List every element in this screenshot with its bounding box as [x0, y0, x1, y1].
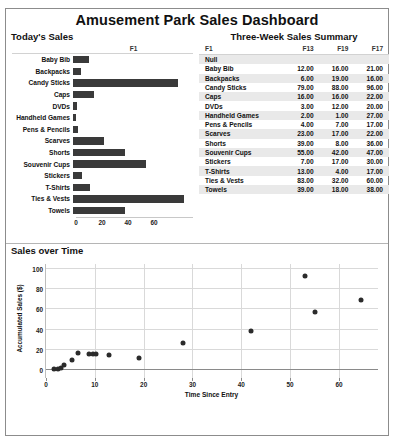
- scatter-grid-line-vertical: [144, 264, 145, 378]
- table-cell-name: Backpacks: [199, 74, 285, 83]
- table-cell-value: 7.00: [320, 120, 355, 129]
- scatter-point: [180, 340, 185, 345]
- bar-track: [73, 100, 193, 112]
- scatter-x-tick-label: 60: [335, 381, 342, 388]
- scatter-grid-line-vertical: [241, 264, 242, 378]
- sales-over-time-panel: Sales over Time Accumulated Sales ($) 01…: [6, 244, 388, 408]
- table-row: Scarves23.0017.0022.00: [199, 129, 389, 138]
- table-row: Handheld Games2.001.0027.00: [199, 111, 389, 120]
- bar-track: [73, 135, 193, 147]
- three-week-summary-panel: Three-Week Sales Summary F1F13F19F17 Nul…: [199, 30, 389, 243]
- summary-table: F1F13F19F17 NullBaby Bib12.0016.0021.00B…: [199, 44, 389, 194]
- bar-chart-rows: Baby BibBackpacksCandy SticksCapsDVDsHan…: [6, 54, 199, 216]
- table-cell-value: 96.00: [354, 83, 389, 92]
- scatter-point: [62, 362, 67, 367]
- table-cell-value: 32.00: [320, 176, 355, 185]
- table-cell-name: Ties & Vests: [199, 176, 285, 185]
- bar-chart: F1 Baby BibBackpacksCandy SticksCapsDVDs…: [6, 45, 199, 229]
- table-cell-value: [285, 55, 320, 65]
- table-cell-value: 60.00: [354, 176, 389, 185]
- bar-category-label: Handheld Games: [6, 114, 73, 121]
- bar-category-label: Towels: [6, 207, 73, 214]
- scatter-grid-line-vertical: [290, 264, 291, 378]
- table-column-header: F13: [285, 44, 320, 55]
- table-cell-name: Caps: [199, 92, 285, 101]
- scatter-point: [302, 274, 307, 279]
- bar-track: [73, 66, 193, 78]
- scatter-x-axis-label: Time Since Entry: [45, 391, 378, 398]
- scatter-y-tick-label: 40: [36, 326, 43, 333]
- bar-fill: [73, 102, 77, 109]
- scatter-grid-line-vertical: [95, 264, 96, 378]
- scatter-x-tick-label: 10: [91, 381, 98, 388]
- table-cell-value: 18.00: [320, 185, 355, 194]
- table-cell-value: 19.00: [320, 74, 355, 83]
- scatter-point: [70, 357, 75, 362]
- page-title: Amusement Park Sales Dashboard: [6, 9, 388, 30]
- bar-row: Souvenir Cups: [6, 158, 199, 170]
- scatter-point: [76, 350, 81, 355]
- table-cell-value: [320, 55, 355, 65]
- table-row: Ties & Vests83.0032.0060.00: [199, 176, 389, 185]
- table-cell-name: Pens & Pencils: [199, 120, 285, 129]
- table-cell-value: 42.00: [320, 148, 355, 157]
- bar-category-label: Candy Sticks: [6, 79, 73, 86]
- table-cell-value: 39.00: [285, 185, 320, 194]
- table-cell-name: Baby Bib: [199, 64, 285, 73]
- table-cell-name: Towels: [199, 185, 285, 194]
- table-cell-value: 17.00: [354, 166, 389, 175]
- table-cell-value: 4.00: [285, 120, 320, 129]
- bar-fill: [73, 137, 104, 144]
- table-cell-value: 21.00: [354, 64, 389, 73]
- table-cell-value: 88.00: [320, 83, 355, 92]
- bar-track: [73, 147, 193, 159]
- scatter-grid-line-vertical: [339, 264, 340, 378]
- table-cell-value: 1.00: [320, 111, 355, 120]
- scatter-point: [358, 298, 363, 303]
- scatter-y-tick-label: 20: [36, 346, 43, 353]
- scatter-point: [107, 352, 112, 357]
- table-row: Shorts39.008.0036.00: [199, 139, 389, 148]
- sales-over-time-title: Sales over Time: [6, 244, 388, 256]
- table-row: Baby Bib12.0016.0021.00: [199, 64, 389, 73]
- scatter-x-tick-label: 0: [44, 381, 48, 388]
- table-cell-name: DVDs: [199, 101, 285, 110]
- table-cell-value: 17.00: [354, 120, 389, 129]
- table-body: NullBaby Bib12.0016.0021.00Backpacks6.00…: [199, 55, 389, 195]
- table-cell-value: 79.00: [285, 83, 320, 92]
- table-cell-value: 30.00: [354, 157, 389, 166]
- bar-fill: [73, 79, 178, 86]
- bar-category-label: Ties & Vests: [6, 195, 73, 202]
- bar-x-tick: 20: [98, 219, 105, 226]
- bar-track: [73, 54, 193, 66]
- table-cell-value: 36.00: [354, 139, 389, 148]
- bar-row: Handheld Games: [6, 112, 199, 124]
- bar-x-tick: 40: [124, 219, 131, 226]
- scatter-point: [93, 351, 98, 356]
- bar-x-tick: 0: [74, 219, 78, 226]
- scatter-x-tick-label: 20: [140, 381, 147, 388]
- bar-fill: [73, 149, 125, 156]
- table-row: Null: [199, 55, 389, 65]
- table-cell-value: 3.00: [285, 101, 320, 110]
- bar-category-label: Souvenir Cups: [6, 161, 73, 168]
- scatter-grid-line-horizontal: [46, 349, 378, 350]
- table-row: Pens & Pencils4.007.0017.00: [199, 120, 389, 129]
- scatter-grid-line-horizontal: [46, 308, 378, 309]
- bar-fill: [73, 126, 78, 133]
- table-cell-value: 83.00: [285, 176, 320, 185]
- scatter-chart: Accumulated Sales ($) 010203040506002040…: [12, 258, 380, 408]
- three-week-summary-title: Three-Week Sales Summary: [199, 30, 389, 42]
- bar-category-label: Stickers: [6, 172, 73, 179]
- table-cell-value: 27.00: [354, 111, 389, 120]
- table-cell-value: 22.00: [354, 129, 389, 138]
- table-cell-name: Candy Sticks: [199, 83, 285, 92]
- bar-row: Ties & Vests: [6, 193, 199, 205]
- table-cell-value: 22.00: [354, 92, 389, 101]
- bar-track: [73, 193, 193, 205]
- table-cell-name: Handheld Games: [199, 111, 285, 120]
- bar-row: Backpacks: [6, 66, 199, 78]
- table-cell-value: 8.00: [320, 139, 355, 148]
- bar-track: [73, 77, 193, 89]
- bar-fill: [73, 172, 82, 179]
